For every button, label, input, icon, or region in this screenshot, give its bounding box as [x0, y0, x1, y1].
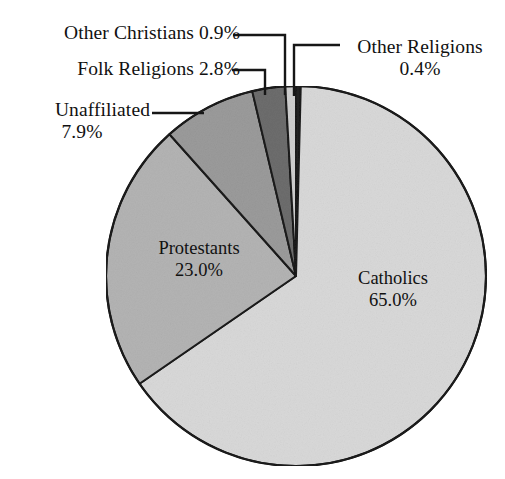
slice-callout-other-christians: Other Christians 0.9%	[14, 22, 240, 44]
pie-chart: Other Christians 0.9% Folk Religions 2.8…	[0, 0, 505, 479]
slice-label-catholics: Catholics 65.0%	[333, 267, 453, 311]
slice-callout-folk-religions: Folk Religions 2.8%	[14, 58, 240, 80]
slice-callout-other-religions-name: Other Religions	[345, 36, 495, 58]
slice-label-catholics-value: 65.0%	[333, 289, 453, 311]
slice-label-protestants-value: 23.0%	[131, 259, 267, 281]
slice-callout-unaffiliated: Unaffiliated 7.9%	[14, 99, 150, 144]
slice-callout-other-christians-text: Other Christians 0.9%	[14, 22, 240, 44]
slice-callout-other-religions: Other Religions 0.4%	[345, 36, 495, 81]
slice-callout-unaffiliated-value: 7.9%	[14, 121, 150, 143]
slice-label-catholics-name: Catholics	[333, 267, 453, 289]
slice-callout-unaffiliated-name: Unaffiliated	[14, 99, 150, 121]
slice-callout-other-religions-value: 0.4%	[345, 58, 495, 80]
slice-callout-folk-religions-text: Folk Religions 2.8%	[14, 58, 240, 80]
slice-label-protestants-name: Protestants	[131, 237, 267, 259]
slice-label-protestants: Protestants 23.0%	[131, 237, 267, 281]
